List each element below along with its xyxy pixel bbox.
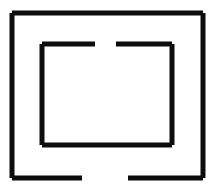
- figure-canvas: [0, 0, 218, 190]
- figure-background: [0, 0, 218, 190]
- nested-rectangles-diagram: [0, 0, 218, 190]
